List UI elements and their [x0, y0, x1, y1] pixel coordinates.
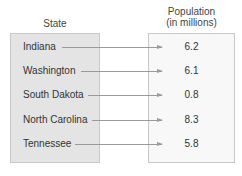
mapping-arrow — [62, 47, 162, 48]
range-header-line1: Population — [148, 6, 235, 17]
state-label: Washington — [23, 65, 75, 77]
population-value: 6.1 — [148, 65, 235, 77]
population-value: 8.3 — [148, 114, 235, 126]
state-label: North Carolina — [23, 114, 87, 126]
population-value: 0.8 — [148, 89, 235, 101]
range-header-line2: (in millions) — [148, 17, 235, 28]
state-label: Tennessee — [23, 138, 71, 150]
state-label: Indiana — [23, 41, 56, 53]
population-value: 6.2 — [148, 41, 235, 53]
state-label: South Dakota — [23, 89, 84, 101]
population-value: 5.8 — [148, 138, 235, 150]
domain-header: State — [10, 18, 100, 29]
range-header: Population (in millions) — [148, 6, 235, 28]
